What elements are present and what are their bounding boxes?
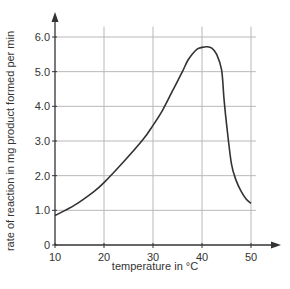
y-axis-title: rate of reaction in mg product formed pe… xyxy=(4,31,16,251)
y-axis-arrow-icon xyxy=(52,12,59,22)
y-tick-label: 6.0 xyxy=(35,31,50,43)
tick-labels: 102030405001.02.03.04.05.06.0 xyxy=(35,31,257,263)
x-axis-title: temperature in °C xyxy=(112,260,198,272)
y-tick-label: 1.0 xyxy=(35,204,50,216)
grid-lines xyxy=(55,27,256,245)
y-tick-label: 0 xyxy=(44,239,50,251)
x-tick-label: 20 xyxy=(98,251,110,263)
axes xyxy=(52,12,282,249)
y-tick-label: 3.0 xyxy=(35,135,50,147)
x-tick-label: 10 xyxy=(49,251,61,263)
y-tick-label: 5.0 xyxy=(35,66,50,78)
y-tick-label: 4.0 xyxy=(35,100,50,112)
rate-vs-temperature-chart: 102030405001.02.03.04.05.06.0 temperatur… xyxy=(0,0,290,289)
x-tick-label: 50 xyxy=(245,251,257,263)
y-tick-label: 2.0 xyxy=(35,170,50,182)
x-axis-arrow-icon xyxy=(271,242,281,249)
